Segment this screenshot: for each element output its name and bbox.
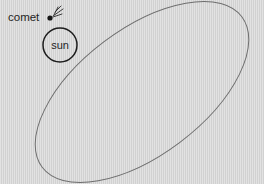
diagram-svg: sun comet (0, 0, 264, 184)
comet-orbit-path (4, 0, 264, 184)
sun-icon: sun (43, 28, 77, 62)
comet-label: comet (8, 11, 40, 23)
sun-label: sun (51, 39, 69, 51)
comet-icon (47, 6, 63, 21)
comet-nucleus (47, 15, 52, 20)
orbit-ellipse-icon (4, 0, 264, 184)
orbit-diagram-canvas: sun comet (0, 0, 264, 184)
